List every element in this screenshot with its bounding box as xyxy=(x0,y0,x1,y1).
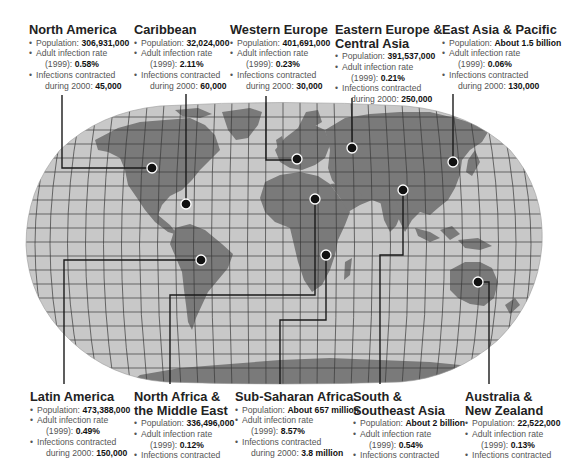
rate-value: 8.57% xyxy=(281,426,305,436)
infections-value: 130,000 xyxy=(508,81,539,91)
rate-value: 0.49% xyxy=(76,426,100,436)
callout-latin-america: Latin America Population: 473,388,000 Ad… xyxy=(30,390,130,458)
region-name: North Africa &the Middle East xyxy=(134,390,234,417)
callout-western-europe: Western Europe Population: 401,691,000 A… xyxy=(230,23,330,91)
marker-east-asia xyxy=(448,157,458,167)
region-name: Western Europe xyxy=(230,23,330,37)
callout-australia-new-zealand: Australia &New Zealand Population: 22,52… xyxy=(465,390,560,461)
rate-value: 0.21% xyxy=(381,73,405,83)
marker-australia xyxy=(473,277,483,287)
callout-sub-saharan-africa: Sub-Saharan Africa Population: About 657… xyxy=(235,390,359,458)
infections-value: 250,000 xyxy=(401,94,432,104)
region-name: South &Southeast Asia xyxy=(353,390,465,417)
population-value: About 1.5 billion xyxy=(494,38,561,48)
population-value: 22,522,000 xyxy=(517,418,560,428)
infections-value: 45,000 xyxy=(95,81,121,91)
rate-value: 0.54% xyxy=(399,440,423,450)
marker-north-africa xyxy=(310,194,320,204)
population-value: About 2 billion xyxy=(405,418,465,428)
region-name: Eastern Europe &Central Asia xyxy=(335,23,442,50)
population-value: 391,537,000 xyxy=(387,51,435,61)
rate-value: 0.13% xyxy=(511,440,535,450)
marker-latin-america xyxy=(196,255,206,265)
callout-north-america: North America Population: 306,931,000 Ad… xyxy=(29,23,129,91)
region-name: Latin America xyxy=(30,390,130,404)
callout-eastern-europe-central-asia: Eastern Europe &Central Asia Population:… xyxy=(335,23,442,105)
region-name: Caribbean xyxy=(134,23,229,37)
population-value: 306,931,000 xyxy=(81,38,129,48)
callout-south-southeast-asia: South &Southeast Asia Population: About … xyxy=(353,390,465,461)
population-value: 401,691,000 xyxy=(282,38,330,48)
region-name: Australia &New Zealand xyxy=(465,390,560,417)
callout-east-asia-pacific: East Asia & Pacific Population: About 1.… xyxy=(442,23,561,91)
rate-value: 0.58% xyxy=(75,59,99,69)
marker-north-america xyxy=(147,163,157,173)
population-value: 336,496,000 xyxy=(186,418,234,428)
rate-value: 0.12% xyxy=(180,440,204,450)
marker-western-europe xyxy=(292,154,302,164)
marker-south-asia xyxy=(398,185,408,195)
region-name: North America xyxy=(29,23,129,37)
region-name: East Asia & Pacific xyxy=(442,23,561,37)
infections-value: 30,000 xyxy=(296,81,322,91)
rate-value: 2.11% xyxy=(180,59,204,69)
callout-caribbean: Caribbean Population: 32,024,000 Adult i… xyxy=(134,23,229,91)
infections-value: 3.8 million xyxy=(301,448,343,458)
marker-caribbean xyxy=(181,199,191,209)
population-value: About 657 million xyxy=(287,405,359,415)
callout-north-africa-middle-east: North Africa &the Middle East Population… xyxy=(134,390,234,461)
population-value: 473,388,000 xyxy=(82,405,130,415)
infections-value: 60,000 xyxy=(200,81,226,91)
marker-eastern-europe xyxy=(347,143,357,153)
marker-sub-saharan-africa xyxy=(321,250,331,260)
rate-value: 0.06% xyxy=(488,59,512,69)
infections-value: 150,000 xyxy=(96,448,127,458)
population-value: 32,024,000 xyxy=(186,38,229,48)
rate-value: 0.23% xyxy=(276,59,300,69)
region-name: Sub-Saharan Africa xyxy=(235,390,359,404)
